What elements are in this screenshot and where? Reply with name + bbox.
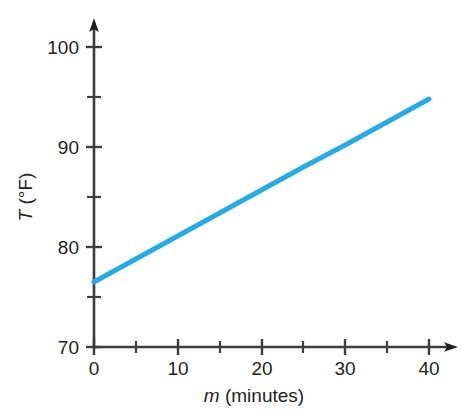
y-tick-label-70: 70 <box>58 337 79 358</box>
x-tick-label-20: 20 <box>251 358 272 379</box>
y-tick-label-100: 100 <box>47 37 79 58</box>
x-tick-label-30: 30 <box>334 358 355 379</box>
line-chart-plot: 100 90 80 70 T (°F) <box>0 0 471 416</box>
x-axis-title: m (minutes) <box>204 385 304 406</box>
chart-figure: 100 90 80 70 T (°F) <box>0 0 471 416</box>
x-tick-label-40: 40 <box>418 358 439 379</box>
y-axis-title: T (°F) <box>15 173 36 222</box>
x-axis-title-variable: m <box>204 385 220 406</box>
x-axis-title-unit: (minutes) <box>220 385 304 406</box>
x-tick-label-10: 10 <box>167 358 188 379</box>
y-tick-label-80: 80 <box>58 237 79 258</box>
y-axis-title-unit: (°F) <box>15 173 36 210</box>
y-tick-label-90: 90 <box>58 137 79 158</box>
x-tick-label-0: 0 <box>89 358 100 379</box>
